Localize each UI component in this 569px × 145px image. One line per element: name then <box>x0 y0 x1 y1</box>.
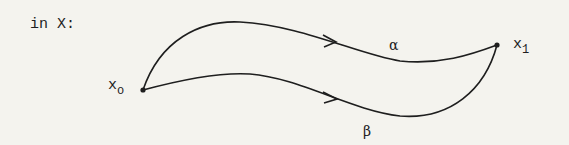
start-point-label: xo <box>108 78 124 97</box>
path-diagram <box>0 0 569 145</box>
path-alpha <box>143 22 497 90</box>
beta-label: β <box>363 124 371 138</box>
path-beta <box>143 45 497 116</box>
point-x0 <box>140 87 145 92</box>
alpha-label: α <box>389 38 398 52</box>
point-x1 <box>494 42 499 47</box>
arrow-icon-beta <box>323 92 337 103</box>
space-label: in X: <box>30 17 75 32</box>
end-point-label: x1 <box>513 37 529 56</box>
